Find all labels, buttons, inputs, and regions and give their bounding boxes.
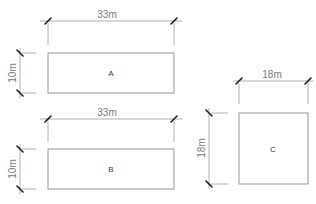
shape-b-group: 33m 10m B [7, 107, 182, 194]
shape-c-label: C [270, 145, 276, 154]
shape-c-height-label: 18m [196, 138, 207, 157]
shape-a-width-label: 33m [97, 9, 116, 20]
shape-b-width-label: 33m [97, 107, 116, 118]
shape-a-label: A [108, 69, 114, 78]
shape-a-group: 33m 10m A [7, 9, 182, 98]
shape-c-width-label: 18m [262, 69, 281, 80]
shape-b-label: B [108, 165, 113, 174]
shape-a-height-label: 10m [7, 63, 18, 82]
shape-c-group: 18m 18m C [196, 69, 313, 189]
diagram-canvas: 33m 10m A 33m 10m B 18m [0, 0, 316, 204]
shape-b-height-label: 10m [7, 159, 18, 178]
